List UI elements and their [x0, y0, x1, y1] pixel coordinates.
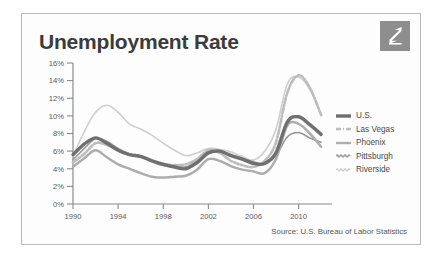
y-axis-labels: 16% 14% 12% 10% 8% 6% 4% 2% 0% [49, 59, 64, 209]
y-tick-label: 14% [49, 76, 64, 85]
y-tick-label: 6% [53, 147, 64, 156]
y-tick-label: 16% [49, 59, 64, 68]
y-tick-label: 2% [53, 182, 64, 191]
legend-item-pittsburgh[interactable]: Pittsburgh [336, 150, 420, 164]
legend-swatch-wavy-light-icon [336, 165, 351, 175]
chart-series-layer [73, 75, 321, 177]
x-tick-label: 2006 [245, 212, 262, 221]
legend-item-riverside[interactable]: Riverside [336, 163, 420, 177]
x-tick-label: 1998 [155, 212, 172, 221]
x-tick-label: 2010 [290, 212, 307, 221]
legend-label: Pittsburgh [356, 152, 393, 161]
legend-label: U.S. [356, 111, 372, 120]
x-tick-label: 1990 [65, 212, 82, 221]
y-axis-ticks [67, 63, 73, 204]
chart-source-note: Source: U.S. Bureau of Labor Statistics [271, 227, 407, 236]
x-tick-label: 1994 [110, 212, 127, 221]
legend-label: Las Vegas [356, 125, 394, 134]
y-tick-label: 8% [53, 129, 64, 138]
chart-card: Unemployment Rate 16% 14% [21, 13, 421, 245]
x-axis-labels: 1990 1994 1998 2002 2006 2010 [65, 212, 308, 221]
legend-label: Riverside [356, 165, 390, 174]
y-tick-label: 10% [49, 112, 64, 121]
y-tick-label: 4% [53, 165, 64, 174]
legend-swatch-dash-dot-icon [336, 124, 351, 134]
x-tick-label: 2002 [200, 212, 217, 221]
legend-item-las-vegas[interactable]: Las Vegas [336, 123, 420, 137]
legend-swatch-solid-thick-icon [336, 111, 351, 121]
legend-item-phoenix[interactable]: Phoenix [336, 136, 420, 150]
legend-swatch-solid-icon [336, 138, 351, 148]
legend-item-us[interactable]: U.S. [336, 109, 420, 123]
y-tick-label: 12% [49, 94, 64, 103]
legend-swatch-wavy-icon [336, 151, 351, 161]
y-tick-label: 0% [53, 200, 64, 209]
chart-legend: U.S. Las Vegas Phoenix Pittsburgh Rivers… [336, 109, 420, 177]
legend-label: Phoenix [356, 138, 386, 147]
x-axis-ticks [73, 204, 299, 209]
